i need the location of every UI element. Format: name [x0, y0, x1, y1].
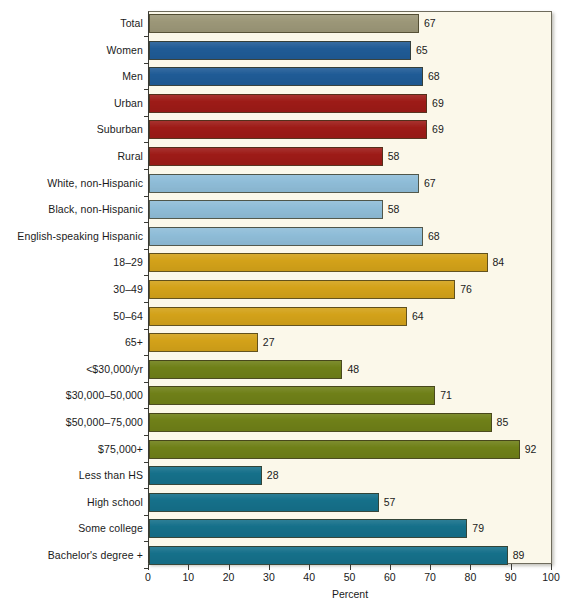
bar-value-label: 58 [388, 150, 400, 162]
category-label: White, non-Hispanic [0, 177, 143, 189]
bar-row[interactable]: 67 [149, 174, 552, 193]
bar-row[interactable]: 92 [149, 440, 552, 459]
category-label: $30,000–50,000 [0, 389, 143, 401]
x-axis-tick-label: 80 [465, 571, 477, 583]
bar-row[interactable]: 84 [149, 253, 552, 272]
bar[interactable] [149, 227, 423, 246]
bar[interactable] [149, 519, 467, 538]
x-axis-tick [470, 564, 471, 570]
category-label: 65+ [0, 336, 143, 348]
category-label: 50–64 [0, 310, 143, 322]
bar[interactable] [149, 147, 383, 166]
bar[interactable] [149, 546, 508, 565]
bar[interactable] [149, 174, 419, 193]
bar-row[interactable]: 67 [149, 14, 552, 33]
bar-row[interactable]: 85 [149, 413, 552, 432]
category-label: Suburban [0, 123, 143, 135]
bar[interactable] [149, 413, 492, 432]
bar-row[interactable]: 79 [149, 519, 552, 538]
bar[interactable] [149, 307, 407, 326]
bar[interactable] [149, 120, 427, 139]
bar-value-label: 67 [424, 177, 436, 189]
bar-row[interactable]: 58 [149, 147, 552, 166]
bar-row[interactable]: 76 [149, 280, 552, 299]
bar[interactable] [149, 200, 383, 219]
x-axis-tick [350, 564, 351, 570]
bar-value-label: 92 [525, 443, 537, 455]
x-axis-tick-label: 0 [145, 571, 151, 583]
category-axis-labels: TotalWomenMenUrbanSuburbanRuralWhite, no… [0, 11, 143, 564]
category-label: Less than HS [0, 469, 143, 481]
bar-row[interactable]: 28 [149, 466, 552, 485]
category-label: Rural [0, 150, 143, 162]
bar-value-label: 48 [347, 363, 359, 375]
bar-value-label: 67 [424, 17, 436, 29]
category-label: English-speaking Hispanic [0, 230, 143, 242]
x-axis-tick-label: 30 [263, 571, 275, 583]
category-label: $50,000–75,000 [0, 416, 143, 428]
bar[interactable] [149, 41, 411, 60]
category-label: 18–29 [0, 256, 143, 268]
x-axis-tick [309, 564, 310, 570]
bar-value-label: 57 [384, 496, 396, 508]
bar[interactable] [149, 333, 258, 352]
bar-row[interactable]: 68 [149, 67, 552, 86]
category-label: Bachelor's degree + [0, 549, 143, 561]
bar-row[interactable]: 58 [149, 200, 552, 219]
bar-value-label: 64 [412, 310, 424, 322]
bar[interactable] [149, 253, 488, 272]
category-label: Urban [0, 97, 143, 109]
bar-value-label: 28 [267, 469, 279, 481]
bar-value-label: 89 [513, 549, 525, 561]
category-label: Women [0, 44, 143, 56]
bar[interactable] [149, 386, 435, 405]
bar-row[interactable]: 57 [149, 493, 552, 512]
x-axis-tick [148, 564, 149, 570]
bar-value-label: 79 [472, 522, 484, 534]
x-axis-tick-label: 20 [223, 571, 235, 583]
x-axis-tick-label: 10 [182, 571, 194, 583]
bar-row[interactable]: 71 [149, 386, 552, 405]
bar-row[interactable]: 27 [149, 333, 552, 352]
x-axis-tick-label: 40 [303, 571, 315, 583]
x-axis-tick [269, 564, 270, 570]
category-label: <$30,000/yr [0, 363, 143, 375]
category-label: High school [0, 496, 143, 508]
bar[interactable] [149, 280, 455, 299]
bar-value-label: 84 [493, 256, 505, 268]
x-axis-tick [551, 564, 552, 570]
category-label: Some college [0, 522, 143, 534]
bar[interactable] [149, 493, 379, 512]
x-axis-tick-label: 70 [424, 571, 436, 583]
bar-row[interactable]: 69 [149, 120, 552, 139]
category-label: Total [0, 17, 143, 29]
x-axis-tick [229, 564, 230, 570]
bars-layer: 6765686969586758688476642748718592285779… [149, 11, 552, 564]
category-label: 30–49 [0, 283, 143, 295]
bar-value-label: 69 [432, 97, 444, 109]
x-axis-tick [430, 564, 431, 570]
bar-row[interactable]: 48 [149, 360, 552, 379]
bar-value-label: 68 [428, 70, 440, 82]
bar[interactable] [149, 360, 342, 379]
bar-row[interactable]: 65 [149, 41, 552, 60]
bar-value-label: 68 [428, 230, 440, 242]
bar[interactable] [149, 466, 262, 485]
bar[interactable] [149, 14, 419, 33]
bar[interactable] [149, 67, 423, 86]
category-label: Men [0, 70, 143, 82]
bar-row[interactable]: 89 [149, 546, 552, 565]
bar-value-label: 85 [497, 416, 509, 428]
bar-chart-figure: TotalWomenMenUrbanSuburbanRuralWhite, no… [0, 0, 571, 607]
bar-row[interactable]: 68 [149, 227, 552, 246]
bar-value-label: 58 [388, 203, 400, 215]
bar-row[interactable]: 69 [149, 94, 552, 113]
bar-value-label: 71 [440, 389, 452, 401]
bar[interactable] [149, 440, 520, 459]
bar[interactable] [149, 94, 427, 113]
x-axis: Percent 0102030405060708090100 [148, 564, 552, 606]
bar-value-label: 69 [432, 123, 444, 135]
bar-row[interactable]: 64 [149, 307, 552, 326]
x-axis-tick-label: 90 [505, 571, 517, 583]
x-axis-tick [188, 564, 189, 570]
